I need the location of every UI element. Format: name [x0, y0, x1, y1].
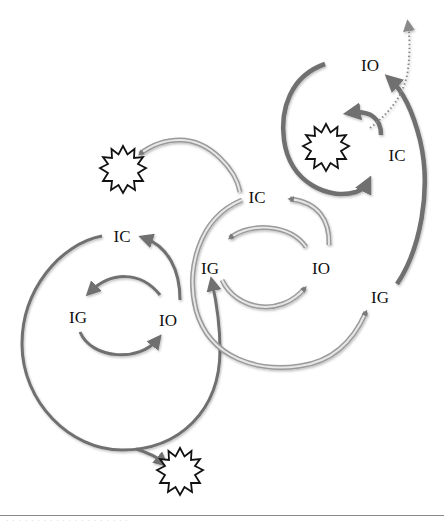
starburst-bottom-icon	[157, 448, 203, 495]
left-io-to-ic-arrow	[144, 238, 180, 300]
right-ig-to-top-io-arrow	[390, 79, 425, 284]
node-left-io: IO	[159, 312, 177, 329]
node-left-ig: IG	[69, 309, 87, 326]
left-to-bottom-starburst-arrow	[136, 449, 164, 463]
node-left-ic: IC	[114, 228, 131, 245]
top-ic-to-starburst-arrow	[350, 112, 381, 135]
starburst-icons	[100, 124, 349, 495]
node-top-io: IO	[361, 57, 379, 74]
dotted-exit-arrow	[370, 24, 410, 128]
left-outer-loop-arrow	[22, 236, 220, 450]
left-io-to-ig-arrow	[90, 277, 160, 295]
starburst-top-right-icon	[303, 124, 349, 171]
node-right-ig: IG	[371, 289, 389, 306]
middle-cycle	[140, 140, 366, 367]
node-mid-io: IO	[312, 260, 330, 277]
cycle-diagram	[0, 0, 444, 524]
bottom-separator	[0, 515, 444, 516]
node-mid-ig: IG	[201, 260, 219, 277]
starburst-top-left-icon	[100, 146, 146, 193]
truncated-caption: · · · · · · · · · · · · · · · · · · · ·	[6, 517, 129, 524]
node-mid-ic: IC	[249, 189, 266, 206]
left-ig-to-io-arrow	[80, 332, 158, 355]
node-top-ic: IC	[389, 147, 406, 164]
left-cycle	[22, 236, 220, 463]
